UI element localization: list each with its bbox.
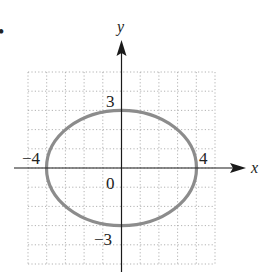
y-axis-label: y (115, 18, 125, 36)
bullet-marker: • (0, 22, 4, 42)
y-tick-3-label: 3 (106, 92, 115, 111)
x-tick-4-label: 4 (199, 149, 208, 168)
x-axis-label: x (250, 159, 258, 176)
y-tick-neg3-label: −3 (94, 230, 112, 249)
x-tick-neg4-label: −4 (22, 149, 41, 168)
ellipse-graph: y x 3 −4 4 0 −3 • (0, 0, 259, 272)
origin-label: 0 (106, 174, 115, 193)
